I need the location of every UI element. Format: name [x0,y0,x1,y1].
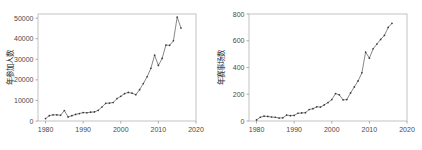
data-point [353,86,355,88]
data-point [346,99,348,101]
data-point [365,51,367,53]
data-point [290,115,292,117]
right-chart-content: 020040060080019801990200020102020年赛事场数 [216,11,415,133]
data-point [316,106,318,108]
y-tick-label: 200 [233,91,245,98]
data-point [60,114,62,116]
data-point [282,117,284,119]
y-tick-label: 10000 [14,97,34,104]
y-tick-label: 800 [233,11,245,18]
data-point [154,54,156,56]
data-point [161,58,163,60]
data-point [391,23,393,25]
data-point [169,44,171,46]
data-point [331,99,333,101]
data-point [120,95,122,97]
data-point [308,109,310,111]
data-point [79,113,81,115]
data-point [165,44,167,46]
x-tick-label: 1990 [75,126,91,133]
x-tick-label: 2000 [113,126,129,133]
data-point [256,119,258,121]
x-tick-label: 1980 [38,126,54,133]
y-tick-label: 30000 [14,56,34,63]
data-point [105,102,107,104]
data-point [338,94,340,96]
data-point [384,35,386,37]
data-point [139,89,141,91]
data-point [267,116,269,118]
data-point [97,109,99,111]
plot-frame [38,14,196,121]
dual-line-chart-figure: 0100002000030000400005000019801990200020… [0,0,422,150]
data-point [94,111,96,113]
y-axis-title: 年赛事场数 [216,49,226,85]
data-point [274,116,276,118]
x-tick-label: 1990 [286,126,302,133]
data-point [86,112,88,114]
data-point [90,111,92,113]
data-point [286,114,288,116]
y-tick-label: 400 [233,64,245,71]
data-point [259,116,261,118]
data-point [301,112,303,114]
x-tick-label: 1980 [249,126,265,133]
data-point [376,43,378,45]
data-point [142,83,144,85]
data-point [342,99,344,101]
data-point [63,110,65,112]
data-point [369,57,371,59]
y-tick-label: 0 [30,118,34,125]
left-chart-svg: 0100002000030000400005000019801990200020… [0,0,211,150]
data-point [305,112,307,114]
data-point [82,112,84,114]
y-tick-label: 600 [233,37,245,44]
data-point [335,93,337,95]
data-point [312,108,314,110]
data-point [146,76,148,78]
data-point [135,94,137,96]
data-point [101,106,103,108]
data-point [350,92,352,94]
data-point [131,92,133,94]
x-tick-label: 2010 [362,126,378,133]
y-tick-label: 50000 [14,15,34,22]
data-point [271,116,273,118]
data-point [357,80,359,82]
x-tick-label: 2020 [399,126,415,133]
data-point [327,102,329,104]
data-point [150,67,152,69]
data-point [75,114,77,116]
x-tick-label: 2020 [188,126,204,133]
data-point [67,116,69,118]
data-point [278,117,280,119]
data-point [361,72,363,74]
data-point [263,115,265,117]
data-point [71,115,73,117]
chart-panel-left: 0100002000030000400005000019801990200020… [0,0,211,150]
data-point [48,115,50,117]
y-axis-title: 年参加人数 [5,49,15,85]
data-point [116,98,118,100]
data-point [124,93,126,95]
data-point [56,114,58,116]
plot-frame [249,14,407,121]
data-point [323,104,325,106]
data-point [320,106,322,108]
data-point [180,27,182,29]
data-point [173,40,175,42]
right-chart-svg: 020040060080019801990200020102020年赛事场数 [211,0,422,150]
x-tick-label: 2010 [151,126,167,133]
data-point [112,102,114,104]
data-point [387,27,389,29]
y-tick-label: 20000 [14,76,34,83]
data-point [380,39,382,41]
x-tick-label: 2000 [324,126,340,133]
y-tick-label: 40000 [14,35,34,42]
y-tick-label: 0 [241,118,245,125]
data-point [293,115,295,117]
data-point [372,48,374,50]
chart-panel-right: 020040060080019801990200020102020年赛事场数 [211,0,422,150]
data-point [158,65,160,67]
data-point [52,114,54,116]
